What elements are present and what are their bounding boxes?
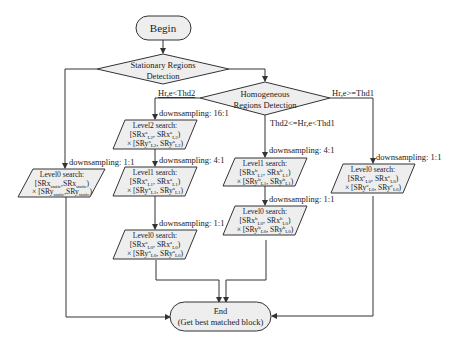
search-box-title: Level0 search: — [133, 231, 177, 240]
edge-label-static: downsampling: 1:1 — [69, 157, 134, 167]
end-label-line2: (Get best matched block) — [178, 317, 264, 327]
condition-high: Hr,e>=Thd1 — [332, 88, 374, 98]
box-c-level0: Level0 search:[SRxcL0, SRxcL0)× [SRycL0,… — [331, 164, 415, 193]
search-box-y-range: × [SRybL0, SRybL0) — [237, 225, 294, 235]
edge-b-l0-to-end — [226, 240, 266, 302]
edge-label-b-l0: downsampling: 1:1 — [269, 194, 334, 204]
decision-stationary-line1: Stationary Regions — [131, 60, 196, 70]
box-a-level0: Level0 search:[SRxaL0, SRxaL0)× [SRyaL0,… — [113, 230, 197, 259]
search-box-title: Level0 search: — [351, 165, 395, 174]
box-b-level1: Level1 search:[SRxbL1, SRxbL1)× [SRybL1,… — [223, 158, 307, 186]
flowchart: Begin Stationary Regions Detection Homog… — [0, 0, 452, 348]
edge-stationary-to-homogeneous — [229, 69, 265, 81]
edge-label-a-l2: downsampling: 16:1 — [159, 108, 229, 118]
search-box-title: Level1 search: — [133, 168, 177, 177]
end-node: End (Get best matched block) — [170, 302, 271, 331]
search-box-title: Level2 search: — [133, 121, 177, 130]
decision-stationary: Stationary Regions Detection — [97, 54, 229, 84]
edge-homogeneous-high — [330, 98, 373, 163]
box-a-level1: Level1 search:[SRxaL1, SRxaL1)× [SRyaL1,… — [113, 167, 197, 196]
decision-stationary-line2: Detection — [146, 71, 180, 81]
decision-homogeneous-line2: Regions Detection — [233, 100, 297, 110]
edge-label-c-l0: downsampling: 1:1 — [376, 152, 441, 162]
search-box-title: Level1 search: — [243, 159, 287, 168]
edge-stationary-to-static — [65, 69, 97, 168]
box-static-level0: Level0 search: [SRxstatic,SRxstatic) × [… — [18, 169, 105, 197]
condition-mid: Thd2<=Hr,e<Thd1 — [270, 118, 335, 128]
box-a-level2: Level2 search:[SRxaL2, SRxaL2)× [SRyaL2,… — [113, 120, 197, 149]
end-label-line1: End — [214, 306, 228, 316]
box-b-level0: Level0 search:[SRxbL0, SRxbL0)× [SRybL0,… — [223, 206, 307, 235]
begin-label: Begin — [150, 22, 177, 34]
edge-a-l0-to-end — [156, 260, 219, 302]
box-static-title: Level0 search: — [40, 170, 84, 179]
edge-label-b-l1: downsampling: 4:1 — [269, 145, 334, 155]
edge-label-a-l1: downsampling: 4:1 — [159, 155, 224, 165]
connectors — [65, 40, 373, 317]
begin-node: Begin — [136, 16, 191, 40]
decision-homogeneous-line1: Homogeneous — [240, 89, 289, 99]
edge-label-a-l0: downsampling: 1:1 — [159, 218, 224, 228]
condition-low: Hr,e<Thd2 — [158, 88, 195, 98]
search-box-title: Level0 search: — [243, 207, 287, 216]
search-box-y-range: × [SRybL1, SRybL1) — [237, 177, 294, 187]
